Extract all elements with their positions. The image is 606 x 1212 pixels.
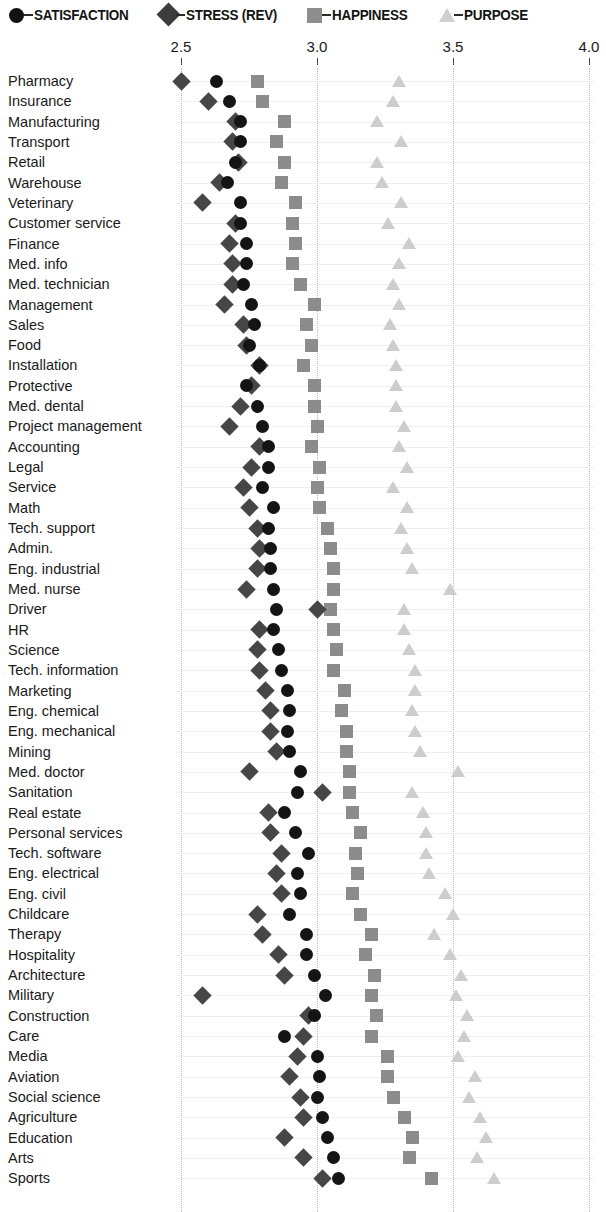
data-point-purpose[interactable] xyxy=(383,318,397,330)
data-point-purpose[interactable] xyxy=(386,95,400,107)
data-point-purpose[interactable] xyxy=(413,745,427,757)
category-label-finance[interactable]: Finance xyxy=(8,237,60,251)
data-point-purpose[interactable] xyxy=(449,989,463,1001)
data-point-purpose[interactable] xyxy=(460,1009,474,1021)
data-point-happiness[interactable] xyxy=(368,969,381,982)
data-point-purpose[interactable] xyxy=(422,867,436,879)
category-label-installation[interactable]: Installation xyxy=(8,358,77,372)
data-point-purpose[interactable] xyxy=(405,786,419,798)
category-label-med-technician[interactable]: Med. technician xyxy=(8,277,110,291)
data-point-purpose[interactable] xyxy=(397,623,411,635)
data-point-happiness[interactable] xyxy=(381,1050,394,1063)
data-point-purpose[interactable] xyxy=(400,501,414,513)
data-point-purpose[interactable] xyxy=(389,379,403,391)
data-point-satisfaction[interactable] xyxy=(270,603,283,616)
category-label-manufacturing[interactable]: Manufacturing xyxy=(8,115,100,129)
category-label-eng-industrial[interactable]: Eng. industrial xyxy=(8,562,100,576)
data-point-purpose[interactable] xyxy=(470,1151,484,1163)
category-label-eng-civil[interactable]: Eng. civil xyxy=(8,887,66,901)
category-label-military[interactable]: Military xyxy=(8,988,54,1002)
category-label-insurance[interactable]: Insurance xyxy=(8,94,72,108)
data-point-happiness[interactable] xyxy=(351,867,364,880)
data-point-happiness[interactable] xyxy=(251,75,264,88)
data-point-happiness[interactable] xyxy=(308,379,321,392)
legend-item-stress[interactable]: STRESS (REV) xyxy=(160,0,284,30)
data-point-satisfaction[interactable] xyxy=(308,969,321,982)
data-point-purpose[interactable] xyxy=(370,115,384,127)
data-point-purpose[interactable] xyxy=(446,908,460,920)
data-point-satisfaction[interactable] xyxy=(221,176,234,189)
category-label-sanitation[interactable]: Sanitation xyxy=(8,785,73,799)
category-label-transport[interactable]: Transport xyxy=(8,135,70,149)
data-point-happiness[interactable] xyxy=(297,359,310,372)
data-point-purpose[interactable] xyxy=(386,339,400,351)
data-point-purpose[interactable] xyxy=(389,359,403,371)
category-label-accounting[interactable]: Accounting xyxy=(8,440,80,454)
data-point-purpose[interactable] xyxy=(473,1111,487,1123)
data-point-satisfaction[interactable] xyxy=(302,847,315,860)
data-point-satisfaction[interactable] xyxy=(300,928,313,941)
data-point-purpose[interactable] xyxy=(397,603,411,615)
category-label-science[interactable]: Science xyxy=(8,643,60,657)
data-point-happiness[interactable] xyxy=(406,1131,419,1144)
data-point-purpose[interactable] xyxy=(402,237,416,249)
data-point-satisfaction[interactable] xyxy=(240,379,253,392)
data-point-satisfaction[interactable] xyxy=(262,522,275,535)
category-label-service[interactable]: Service xyxy=(8,480,56,494)
category-label-hr[interactable]: HR xyxy=(8,623,29,637)
data-point-happiness[interactable] xyxy=(346,887,359,900)
category-label-tech-information[interactable]: Tech. information xyxy=(8,663,118,677)
category-label-math[interactable]: Math xyxy=(8,501,40,515)
data-point-purpose[interactable] xyxy=(443,948,457,960)
data-point-satisfaction[interactable] xyxy=(275,664,288,677)
data-point-happiness[interactable] xyxy=(381,1070,394,1083)
category-label-eng-electrical[interactable]: Eng. electrical xyxy=(8,866,99,880)
data-point-purpose[interactable] xyxy=(419,847,433,859)
category-label-childcare[interactable]: Childcare xyxy=(8,907,69,921)
data-point-satisfaction[interactable] xyxy=(229,156,242,169)
data-point-satisfaction[interactable] xyxy=(267,623,280,636)
data-point-purpose[interactable] xyxy=(427,928,441,940)
data-point-purpose[interactable] xyxy=(405,562,419,574)
data-point-purpose[interactable] xyxy=(402,643,416,655)
data-point-satisfaction[interactable] xyxy=(278,806,291,819)
category-label-eng-mechanical[interactable]: Eng. mechanical xyxy=(8,724,115,738)
category-label-mining[interactable]: Mining xyxy=(8,745,51,759)
data-point-happiness[interactable] xyxy=(308,400,321,413)
data-point-happiness[interactable] xyxy=(370,1009,383,1022)
data-point-happiness[interactable] xyxy=(387,1091,400,1104)
data-point-satisfaction[interactable] xyxy=(234,217,247,230)
data-point-happiness[interactable] xyxy=(340,745,353,758)
category-label-management[interactable]: Management xyxy=(8,298,93,312)
data-point-satisfaction[interactable] xyxy=(319,989,332,1002)
category-label-warehouse[interactable]: Warehouse xyxy=(8,176,82,190)
data-point-purpose[interactable] xyxy=(392,75,406,87)
data-point-satisfaction[interactable] xyxy=(256,481,269,494)
data-point-satisfaction[interactable] xyxy=(281,725,294,738)
data-point-purpose[interactable] xyxy=(370,156,384,168)
category-label-agriculture[interactable]: Agriculture xyxy=(8,1110,77,1124)
category-label-eng-chemical[interactable]: Eng. chemical xyxy=(8,704,99,718)
data-point-purpose[interactable] xyxy=(394,135,408,147)
data-point-satisfaction[interactable] xyxy=(311,1050,324,1063)
data-point-purpose[interactable] xyxy=(408,725,422,737)
data-point-happiness[interactable] xyxy=(305,440,318,453)
category-label-med-info[interactable]: Med. info xyxy=(8,257,68,271)
category-label-tech-software[interactable]: Tech. software xyxy=(8,846,102,860)
data-point-happiness[interactable] xyxy=(359,948,372,961)
category-label-protective[interactable]: Protective xyxy=(8,379,72,393)
category-label-med-dental[interactable]: Med. dental xyxy=(8,399,84,413)
data-point-purpose[interactable] xyxy=(451,765,465,777)
data-point-happiness[interactable] xyxy=(338,684,351,697)
legend-item-happiness[interactable]: HAPPINESS xyxy=(306,0,413,30)
category-label-real-estate[interactable]: Real estate xyxy=(8,806,81,820)
data-point-happiness[interactable] xyxy=(324,542,337,555)
category-label-admin[interactable]: Admin. xyxy=(8,541,53,555)
data-point-purpose[interactable] xyxy=(400,461,414,473)
data-point-happiness[interactable] xyxy=(365,1030,378,1043)
data-point-purpose[interactable] xyxy=(405,704,419,716)
data-point-happiness[interactable] xyxy=(311,481,324,494)
category-label-therapy[interactable]: Therapy xyxy=(8,927,61,941)
data-point-satisfaction[interactable] xyxy=(243,339,256,352)
data-point-satisfaction[interactable] xyxy=(300,948,313,961)
